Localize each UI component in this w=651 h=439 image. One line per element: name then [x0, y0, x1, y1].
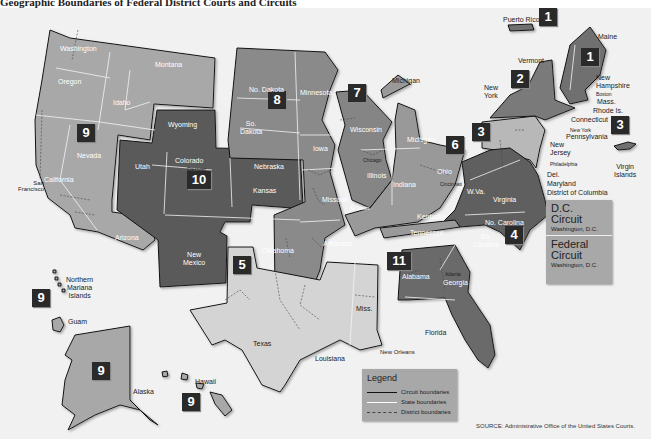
city-denver: Denver	[187, 165, 206, 173]
label-new-york: New York	[484, 84, 498, 100]
city-new-orleans: New Orleans	[380, 348, 415, 356]
circuit-line-swatch	[367, 392, 397, 393]
label-tennessee: Tennessee	[410, 229, 444, 237]
label-florida: Florida	[425, 329, 446, 337]
label-ohio: Ohio	[437, 168, 452, 176]
circuit-badge-2: 2	[511, 70, 529, 88]
label-pennsylvania: Pennsylvania	[566, 133, 608, 141]
legend-item-district: District boundaries	[367, 409, 451, 415]
label-iowa: Iowa	[313, 145, 328, 153]
circuit-badge-6: 6	[446, 136, 464, 154]
label-georgia: Georgia	[443, 279, 468, 287]
n-mariana-shape	[53, 270, 65, 292]
label-miss: Miss.	[356, 305, 372, 313]
label-nevada: Nevada	[77, 152, 101, 160]
alaska-shape	[62, 326, 158, 430]
state-line-swatch	[367, 402, 397, 403]
label-arizona: Arizona	[115, 234, 139, 242]
label-washington: Washington	[60, 45, 97, 53]
label-new-hampshire: New Hampshire	[596, 74, 630, 90]
circuit-badge-1-pr: 1	[539, 8, 557, 26]
dc-circuit-section: D.C. Circuit Washington, D.C.	[546, 200, 612, 235]
city-san-francisco: San Francisco	[18, 180, 44, 192]
legend-item-circuit: Circuit boundaries	[367, 389, 449, 395]
label-colorado: Colorado	[175, 157, 203, 165]
legend-label-state: State boundaries	[401, 399, 446, 405]
label-idaho: Idaho	[113, 99, 131, 107]
label-kentucky: Kentucky	[417, 213, 446, 221]
label-alaska: Alaska	[133, 388, 154, 396]
city-st-louis: St. Louis	[350, 204, 369, 212]
federal-circuit-title: Federal Circuit	[551, 239, 607, 261]
label-minnesota: Minnesota	[300, 89, 332, 97]
label-nebraska: Nebraska	[254, 163, 284, 171]
label-missouri: Missouri	[322, 196, 348, 204]
circuit-badge-3: 3	[472, 123, 490, 141]
label-new-jersey: New Jersey	[550, 141, 571, 157]
label-michigan-upper: Michigan	[392, 77, 420, 85]
label-montana: Montana	[155, 61, 182, 69]
city-philadelphia: Philadelphia	[550, 160, 577, 168]
label-indiana: Indiana	[393, 181, 416, 189]
label-arkansas: Arkansas	[323, 240, 352, 248]
puerto-rico-shape	[508, 24, 534, 31]
circuit-badge-5: 5	[233, 256, 251, 274]
circuit-badge-1: 1	[581, 48, 599, 66]
label-new-mexico: New Mexico	[183, 251, 205, 267]
legend-label-district: District boundaries	[401, 409, 451, 415]
label-connecticut: Connecticut	[571, 116, 608, 124]
label-puerto-rico: Puerto Rico	[503, 16, 540, 24]
virgin-islands-shape	[614, 142, 636, 150]
label-virginia: Virginia	[493, 196, 516, 204]
circuit-badge-4: 4	[505, 226, 523, 244]
city-cincinnati: Cincinnati	[440, 180, 462, 188]
label-maine: Maine	[598, 33, 617, 41]
federal-circuit-section: Federal Circuit Washington, D.C.	[546, 236, 612, 271]
label-rhode-is: Rhode Is.	[593, 107, 623, 115]
dc-circuit-location: Washington, D.C.	[551, 226, 607, 232]
label-utah: Utah	[135, 163, 150, 171]
label-hawaii: Hawaii	[195, 378, 216, 386]
legend-item-state: State boundaries	[367, 399, 446, 405]
circuit-badge-11: 11	[387, 252, 411, 270]
label-wisconsin: Wisconsin	[350, 126, 382, 134]
label-alabama: Alabama	[402, 273, 430, 281]
circuit-badge-7: 7	[348, 84, 366, 102]
label-del: Del.	[547, 171, 559, 179]
label-virgin-islands: Virgin Islands	[614, 163, 636, 179]
city-atlanta: Atlanta	[445, 270, 461, 278]
guam-shape	[52, 317, 64, 332]
city-new-york: New York	[570, 126, 591, 134]
label-vermont: Vermont	[518, 57, 544, 65]
source-note: SOURCE: Administrative Office of the Uni…	[476, 423, 635, 429]
circuit-badge-3-vi: 3	[611, 116, 629, 134]
label-texas: Texas	[253, 340, 271, 348]
label-dc: District of Columbia	[547, 189, 608, 197]
label-wva: W.Va.	[467, 188, 485, 196]
label-louisiana: Louisiana	[315, 355, 345, 363]
label-so-carolina: So. Carolina	[473, 233, 499, 249]
label-oregon: Oregon	[58, 78, 81, 86]
dc-federal-circuit-box: D.C. Circuit Washington, D.C. Federal Ci…	[546, 200, 612, 284]
label-so-dakota: So. Dakota	[240, 120, 262, 136]
label-michigan: Michigan	[407, 136, 435, 144]
dc-circuit-title: D.C. Circuit	[551, 203, 607, 225]
label-guam: Guam	[68, 318, 87, 326]
legend-title: Legend	[367, 373, 397, 383]
circuit-badge-10: 10	[187, 171, 211, 189]
label-wyoming: Wyoming	[168, 121, 197, 129]
label-kansas: Kansas	[253, 187, 276, 195]
label-illinois: Illinois	[367, 172, 386, 180]
legend-label-circuit: Circuit boundaries	[401, 389, 449, 395]
label-california: California	[44, 176, 74, 184]
circuit-badge-9-guam: 9	[32, 289, 50, 307]
label-maryland: Maryland	[547, 180, 576, 188]
federal-circuit-location: Washington, D.C.	[551, 262, 607, 268]
city-chicago: Chicago	[363, 156, 381, 164]
map-caption: Geographic Boundaries of Federal Distric…	[0, 0, 296, 8]
label-n-mariana: Northern Mariana Islands	[66, 276, 93, 300]
circuit-badge-9: 9	[77, 124, 95, 142]
circuit-badge-9-hawaii: 9	[182, 393, 200, 411]
city-boston: Boston	[596, 90, 612, 98]
label-oklahoma: Oklahoma	[262, 247, 294, 255]
